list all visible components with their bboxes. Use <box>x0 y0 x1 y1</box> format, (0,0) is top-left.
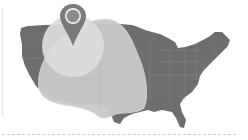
us-map <box>0 0 248 140</box>
map-illustration <box>0 0 248 140</box>
dotted-divider <box>2 134 236 135</box>
